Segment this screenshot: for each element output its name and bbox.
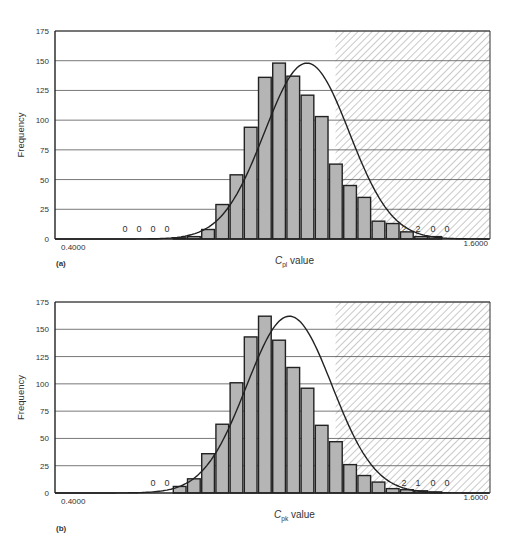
bin-count-annotation: 0 [444,224,449,234]
y-tick-label: 100 [36,116,50,125]
histogram-bar [244,127,257,239]
y-tick-label: 75 [40,146,49,155]
bin-count-annotation: 2 [415,224,420,234]
histogram-bar [273,340,286,493]
y-tick-label: 125 [36,353,50,362]
y-tick-label: 150 [36,325,50,334]
histogram-bar [344,186,357,239]
y-tick-label: 0 [45,235,50,244]
histogram-bar [287,76,300,239]
y-axis-label: Frequency [15,112,26,157]
x-tick-label-min: 0.4000 [61,243,86,252]
chart-panel-b: 02550751001251501750021000.40001.6000Cpk… [0,268,508,536]
y-tick-label: 0 [45,489,50,498]
bin-count-annotation: 2 [401,224,406,234]
y-tick-label: 175 [36,298,50,307]
x-tick-label-min: 0.4000 [61,497,86,506]
y-tick-label: 25 [40,205,49,214]
bin-count-annotation: 2 [401,478,406,488]
panel-label: (b) [56,524,67,533]
histogram-cpk: 02550751001251501750021000.40001.6000Cpk… [0,268,508,536]
y-axis-label: Frequency [15,375,26,420]
histogram-bar [330,442,343,493]
histogram-bar [202,454,215,493]
histogram-bar [315,117,328,239]
bin-count-annotation: 0 [430,478,435,488]
x-axis-label: Cpk value [274,509,315,523]
histogram-bar [273,63,286,239]
panel-label: (a) [56,259,66,268]
histogram-bar [372,482,385,493]
histogram-bar [372,221,385,239]
y-tick-label: 25 [40,462,49,471]
bin-count-annotation: 0 [136,224,141,234]
histogram-bar [202,229,215,239]
bin-count-annotation: 1 [415,478,420,488]
y-tick-label: 150 [36,57,50,66]
bin-count-annotation: 0 [444,478,449,488]
histogram-bar [301,95,314,239]
histogram-bar [344,465,357,493]
y-tick-label: 125 [36,86,50,95]
histogram-bar [216,424,229,493]
x-tick-label-max: 1.6000 [464,493,489,502]
bin-count-annotation: 0 [164,478,169,488]
histogram-bar [386,224,399,239]
y-tick-label: 75 [40,407,49,416]
histogram-cpl: 0255075100125150175000022000.40001.6000C… [0,0,508,268]
bin-count-annotation: 0 [150,478,155,488]
bin-count-annotation: 0 [164,224,169,234]
histogram-bar [287,367,300,493]
bin-count-annotation: 0 [430,224,435,234]
histogram-bar [230,175,243,239]
histogram-bar [244,337,257,493]
y-tick-label: 50 [40,176,49,185]
histogram-bar [301,388,314,493]
histogram-bar [358,197,371,239]
bin-count-annotation: 0 [150,224,155,234]
bin-count-annotation: 0 [122,224,127,234]
histogram-bar [259,77,272,239]
y-tick-label: 175 [36,27,50,36]
histogram-bar [315,425,328,493]
x-tick-label-max: 1.6000 [464,239,489,248]
histogram-bar [330,164,343,239]
x-axis-label: Cpl value [275,255,314,268]
out-of-spec-hatched-region [336,302,490,493]
chart-panel-a: 0255075100125150175000022000.40001.6000C… [0,0,508,268]
y-tick-label: 100 [36,380,50,389]
y-tick-label: 50 [40,434,49,443]
histogram-bar [358,476,371,493]
